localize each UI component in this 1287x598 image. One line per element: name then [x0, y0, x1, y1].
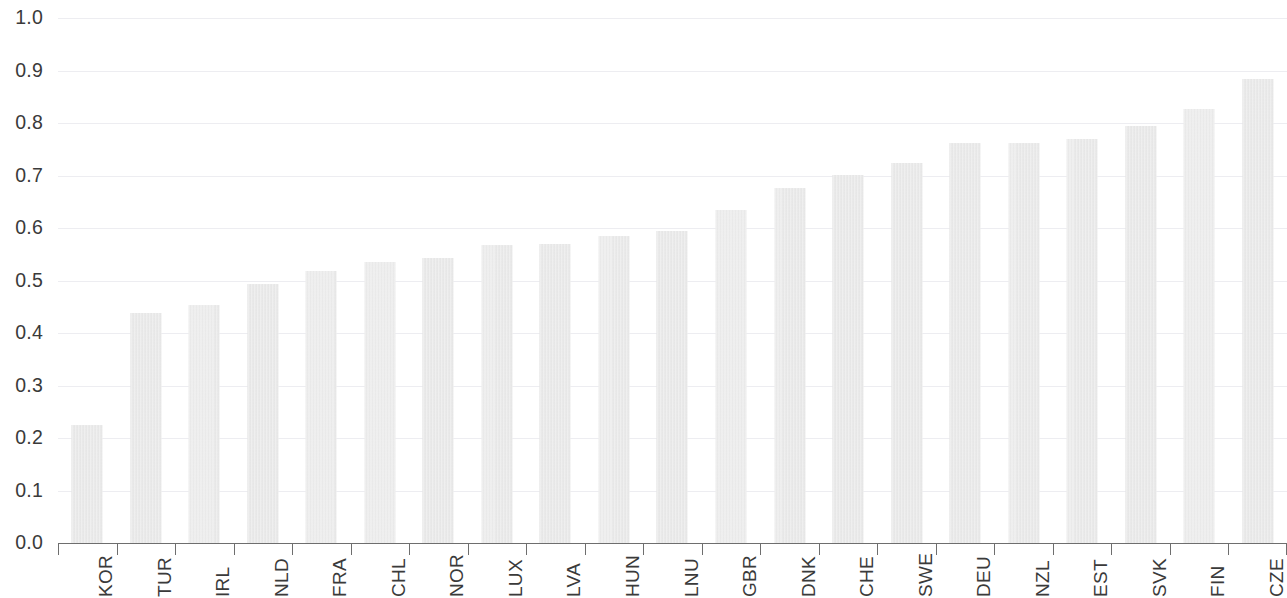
x-axis-tick — [1170, 543, 1171, 555]
bar — [1242, 79, 1273, 543]
y-axis-tick-label: 0.1 — [15, 481, 43, 501]
bar-slot — [936, 0, 995, 598]
bar-slot — [819, 0, 878, 598]
x-axis-label: NOR — [447, 554, 466, 597]
bar-slot — [1053, 0, 1112, 598]
bar — [540, 244, 571, 543]
x-axis-label: NZL — [1033, 560, 1052, 597]
x-axis-tick — [175, 543, 176, 555]
x-axis-label: CZE — [1267, 558, 1286, 597]
y-axis-tick-label: 0.2 — [15, 428, 43, 448]
y-axis-tick-label: 0.9 — [15, 61, 43, 81]
x-axis-tick — [994, 543, 995, 555]
y-axis: 0.00.10.20.30.40.50.60.70.80.91.0 — [0, 0, 60, 598]
x-axis-tick — [58, 543, 59, 555]
bar-slot — [760, 0, 819, 598]
x-axis-tick — [1228, 543, 1229, 555]
bar — [950, 143, 981, 543]
bar-slot — [351, 0, 410, 598]
x-axis-tick — [877, 543, 878, 555]
x-axis-label: SWE — [916, 553, 935, 597]
x-axis-tick — [1053, 543, 1054, 555]
bar-slot — [1170, 0, 1229, 598]
bar-slot — [1111, 0, 1170, 598]
bar-slot — [292, 0, 351, 598]
x-axis-label: TUR — [155, 557, 174, 597]
bar-slot — [58, 0, 117, 598]
x-axis-tick — [117, 543, 118, 555]
x-axis-label: SVK — [1150, 558, 1169, 597]
x-axis-tick — [819, 543, 820, 555]
bar — [891, 163, 922, 543]
bar-slot — [702, 0, 761, 598]
x-axis-label: HUN — [623, 555, 642, 597]
bar-slot — [994, 0, 1053, 598]
y-axis-tick-label: 1.0 — [15, 8, 43, 28]
bar-slot — [409, 0, 468, 598]
y-axis-tick-label: 0.6 — [15, 218, 43, 238]
x-axis-tick — [468, 543, 469, 555]
bar — [306, 271, 337, 543]
x-axis-label: KOR — [96, 555, 115, 597]
bar-slot — [526, 0, 585, 598]
bar-series — [58, 0, 1287, 598]
bar-slot — [175, 0, 234, 598]
bar — [130, 313, 161, 543]
bar — [481, 245, 512, 543]
bar-slot — [234, 0, 293, 598]
x-axis-label: GBR — [740, 555, 759, 597]
x-axis-tick — [234, 543, 235, 555]
bar — [1184, 109, 1215, 543]
plot-area: KORTURIRLNLDFRACHLNORLUXLVAHUNLNUGBRDNKC… — [58, 0, 1287, 598]
bar — [598, 236, 629, 543]
bar-slot — [1228, 0, 1287, 598]
x-axis-label: IRL — [213, 567, 232, 597]
bar — [833, 175, 864, 543]
y-axis-tick-label: 0.8 — [15, 113, 43, 133]
bar — [1125, 126, 1156, 543]
y-axis-tick-label: 0.0 — [15, 533, 43, 553]
y-axis-tick-label: 0.5 — [15, 271, 43, 291]
bar — [657, 231, 688, 543]
x-axis-tick — [409, 543, 410, 555]
bar — [1067, 139, 1098, 543]
x-axis-tick — [643, 543, 644, 555]
y-axis-tick-label: 0.3 — [15, 376, 43, 396]
bar — [189, 305, 220, 543]
x-axis-tick — [1111, 543, 1112, 555]
x-axis-label: CHL — [389, 558, 408, 597]
bar — [1008, 143, 1039, 543]
x-axis-label: FIN — [1208, 565, 1227, 597]
bar — [423, 258, 454, 543]
x-axis-tick — [351, 543, 352, 555]
bar — [72, 425, 103, 543]
x-axis-label: FRA — [330, 558, 349, 597]
x-axis-label: LUX — [506, 559, 525, 597]
x-axis-tick — [526, 543, 527, 555]
bar-chart: 0.00.10.20.30.40.50.60.70.80.91.0 KORTUR… — [0, 0, 1287, 598]
bar-slot — [643, 0, 702, 598]
x-axis-label: CHE — [857, 556, 876, 597]
bar — [716, 210, 747, 543]
y-axis-tick-label: 0.7 — [15, 166, 43, 186]
bar-slot — [117, 0, 176, 598]
bar — [247, 284, 278, 543]
x-axis-label: LNU — [682, 558, 701, 597]
bar-slot — [585, 0, 644, 598]
x-axis-label: DNK — [799, 556, 818, 597]
bar — [774, 188, 805, 543]
x-axis-tick — [585, 543, 586, 555]
x-axis-label: EST — [1091, 559, 1110, 597]
x-axis-tick — [292, 543, 293, 555]
x-axis-tick — [760, 543, 761, 555]
bar-slot — [468, 0, 527, 598]
x-axis-tick — [702, 543, 703, 555]
bar-slot — [877, 0, 936, 598]
x-axis-label: DEU — [974, 556, 993, 597]
x-axis-label: LVA — [564, 563, 583, 597]
y-axis-tick-label: 0.4 — [15, 323, 43, 343]
x-axis-line — [58, 543, 1287, 544]
x-axis-label: NLD — [272, 558, 291, 597]
bar — [364, 262, 395, 543]
